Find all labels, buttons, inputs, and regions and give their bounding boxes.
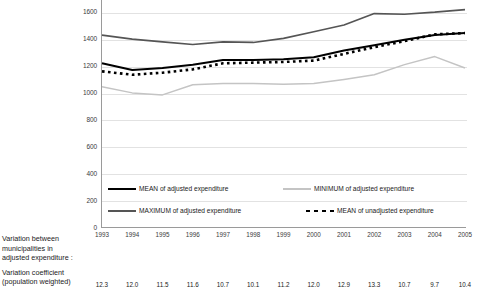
x-axis-tick-label: 1994 (117, 231, 147, 239)
mean-unadjusted-dotted-swatch-icon (306, 210, 334, 212)
x-axis-tick-label: 2005 (450, 231, 480, 239)
variation-coefficient-row: 12.312.011.511.610.710.111.212.012.913.3… (101, 281, 466, 292)
y-axis-tick-label: 800 (73, 117, 97, 124)
legend-row-2: MAXIMUM of adjusted expenditure MEAN of … (108, 204, 438, 218)
variation-coefficient-value: 12.3 (87, 281, 117, 289)
x-axis-labels: 1993199419951996199719981999200020012002… (101, 231, 466, 243)
legend-item-minimum-adjusted: MINIMUM of adjusted expenditure (283, 182, 414, 196)
legend-item-mean-unadjusted: MEAN of unadjusted expenditure (306, 204, 434, 218)
chart-legend: MEAN of adjusted expenditure MINIMUM of … (108, 182, 438, 224)
variation-coefficient-value: 13.3 (359, 281, 389, 289)
mean-line-swatch-icon (108, 188, 136, 190)
maximum-line-swatch-icon (108, 210, 136, 212)
footer-line-3: adjusted expenditure : (2, 253, 98, 263)
legend-label-mean-unadjusted: MEAN of unadjusted expenditure (337, 207, 434, 215)
variation-coefficient-value: 12.0 (117, 281, 147, 289)
variation-coefficient-value: 12.0 (299, 281, 329, 289)
y-axis-tick-label: 1400 (73, 36, 97, 43)
footer-line-2: municipalities in (2, 244, 98, 254)
variation-coefficient-value: 12.9 (329, 281, 359, 289)
minimum-line-swatch-icon (283, 188, 311, 190)
x-axis-tick-label: 1995 (148, 231, 178, 239)
variation-coefficient-value: 10.7 (208, 281, 238, 289)
variation-coefficient-value: 11.6 (178, 281, 208, 289)
variation-coefficient-value: 11.2 (269, 281, 299, 289)
legend-item-mean-adjusted: MEAN of adjusted expenditure (108, 182, 228, 196)
footer-line-4: Variation coefficient (2, 268, 98, 278)
legend-label-minimum-adjusted: MINIMUM of adjusted expenditure (314, 185, 414, 193)
x-axis-tick-label: 2001 (329, 231, 359, 239)
variation-coefficient-value: 10.7 (390, 281, 420, 289)
legend-label-mean-adjusted: MEAN of adjusted expenditure (139, 185, 228, 193)
footer-line-1: Variation between (2, 234, 98, 244)
legend-row-1: MEAN of adjusted expenditure MINIMUM of … (108, 182, 438, 196)
y-axis-tick-label: 600 (73, 144, 97, 151)
y-axis-tick-label: 1000 (73, 90, 97, 97)
x-axis-tick-label: 2000 (299, 231, 329, 239)
x-axis-tick-label: 1999 (269, 231, 299, 239)
variation-coefficient-value: 11.5 (148, 281, 178, 289)
footer-line-5: (population weighted) (2, 277, 98, 287)
y-axis-tick-label: 1600 (73, 9, 97, 16)
x-axis-tick-label: 2002 (359, 231, 389, 239)
y-axis-tick-label: 200 (73, 198, 97, 205)
x-axis-tick-label: 1996 (178, 231, 208, 239)
y-axis-tick-label: 1200 (73, 63, 97, 70)
x-axis-tick-label: 2003 (390, 231, 420, 239)
x-axis-tick-label: 1998 (238, 231, 268, 239)
legend-label-maximum-adjusted: MAXIMUM of adjusted expenditure (139, 207, 241, 215)
variation-coefficient-value: 10.1 (238, 281, 268, 289)
variation-coefficient-value: 9.7 (420, 281, 450, 289)
x-axis-tick-label: 1997 (208, 231, 238, 239)
variation-coefficient-value: 10.4 (450, 281, 480, 289)
x-axis-tick-label: 2004 (420, 231, 450, 239)
footer-annotation: Variation between municipalities in adju… (2, 234, 98, 287)
legend-item-maximum-adjusted: MAXIMUM of adjusted expenditure (108, 204, 241, 218)
chart-page: 02004006008001000120014001600 1993199419… (0, 0, 481, 303)
y-axis-tick-label: 400 (73, 171, 97, 178)
